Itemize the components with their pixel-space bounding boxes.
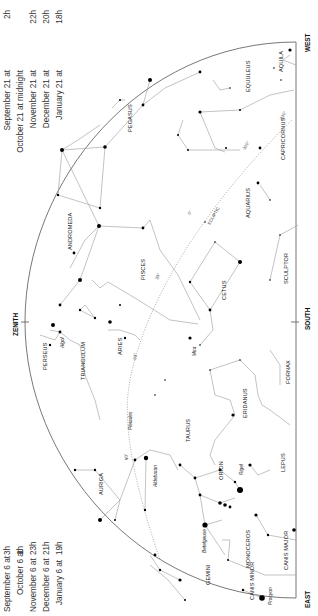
svg-text:Betelgeuse: Betelgeuse (202, 529, 207, 553)
svg-text:PEGASUS: PEGASUS (127, 104, 133, 132)
svg-text:18h: 18h (55, 10, 64, 24)
svg-text:60°: 60° (132, 353, 138, 361)
svg-text:PERSEUS: PERSEUS (42, 342, 48, 370)
svg-text:300°: 300° (242, 140, 251, 151)
svg-text:Mira: Mira (192, 346, 197, 356)
svg-text:January 6 at: January 6 at (55, 559, 64, 605)
svg-text:Algol: Algol (60, 336, 65, 349)
svg-text:Procyon: Procyon (268, 587, 273, 605)
svg-text:19h: 19h (55, 541, 64, 555)
svg-text:EQUULEUS: EQUULEUS (245, 60, 251, 92)
svg-text:CANIS MINOR: CANIS MINOR (249, 562, 255, 600)
svg-text:CANIS MAJOR: CANIS MAJOR (283, 531, 289, 570)
svg-text:January 21 at: January 21 at (55, 69, 64, 119)
svg-text:90°: 90° (123, 453, 129, 460)
svg-text:PISCES: PISCES (140, 259, 146, 280)
svg-text:CETUS: CETUS (221, 280, 227, 300)
star-chart: September 21 at 2h October 21 at midnigh… (0, 0, 318, 616)
svg-text:ERIDANUS: ERIDANUS (242, 388, 248, 418)
constellation-labels: AQUILA EQUULEUS CAPRICORNUS PEGASUS AQUA… (42, 51, 291, 600)
east-label: EAST (304, 591, 311, 608)
svg-text:TRIANGULUM: TRIANGULUM (80, 342, 86, 380)
svg-text:30°: 30° (154, 272, 161, 280)
svg-text:December 6 at: December 6 at (42, 558, 51, 612)
svg-text:TAURUS: TAURUS (185, 419, 191, 442)
svg-text:ARIES: ARIES (117, 338, 123, 355)
svg-text:1h: 1h (16, 545, 25, 555)
svg-text:AQUILA: AQUILA (278, 51, 284, 72)
svg-text:October 6 at: October 6 at (16, 549, 25, 595)
constellation-lines (40, 55, 298, 600)
zenith-label: ZENITH (12, 313, 19, 336)
svg-text:ORION: ORION (218, 461, 224, 480)
svg-text:3h: 3h (3, 545, 12, 555)
svg-text:GEMINI: GEMINI (205, 564, 211, 585)
svg-text:December 21 at: December 21 at (42, 69, 51, 128)
svg-text:September 21 at: September 21 at (3, 69, 12, 130)
svg-text:LEPUS: LEPUS (280, 453, 286, 472)
south-label: SOUTH (304, 307, 311, 330)
svg-text:AQUARIUS: AQUARIUS (245, 188, 251, 218)
svg-text:22h: 22h (29, 10, 38, 24)
stars (49, 48, 296, 601)
svg-text:November 21 at: November 21 at (29, 69, 38, 128)
time-table-bottom: September 6 at 3h October 6 at 1h Novemb… (3, 541, 64, 612)
svg-text:ECLIPTIC: ECLIPTIC (207, 206, 221, 226)
svg-text:September 6 at: September 6 at (3, 555, 12, 612)
svg-text:ANDROMEDA: ANDROMEDA (67, 213, 73, 250)
svg-text:23h: 23h (29, 541, 38, 555)
west-label: WEST (304, 33, 311, 52)
svg-text:FORNAX: FORNAX (285, 360, 291, 384)
svg-text:Aldebaran: Aldebaran (153, 465, 158, 488)
time-table-top: September 21 at 2h October 21 at midnigh… (3, 10, 64, 153)
svg-text:Pleiades: Pleiades (128, 411, 133, 430)
ecliptic: ECLIPTIC 330° 300° 0° 30° 60° 90° (123, 110, 292, 560)
svg-text:0°: 0° (187, 209, 194, 215)
svg-text:20h: 20h (42, 10, 51, 24)
svg-text:November 6 at: November 6 at (29, 558, 38, 612)
svg-text:SCULPTOR: SCULPTOR (283, 253, 289, 284)
svg-text:AURIGA: AURIGA (98, 473, 104, 495)
svg-text:2h: 2h (3, 10, 12, 20)
svg-text:October 21 at midnight: October 21 at midnight (16, 69, 25, 153)
svg-text:CAPRICORNUS: CAPRICORNUS (280, 117, 286, 160)
svg-text:Rigel: Rigel (239, 463, 244, 475)
svg-text:21h: 21h (42, 541, 51, 555)
named-stars: Algol Pleiades Mira Aldebaran Rigel Bete… (60, 336, 273, 605)
